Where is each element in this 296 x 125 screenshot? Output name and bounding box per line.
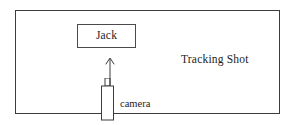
subject-box-jack[interactable]: Jack [77, 24, 136, 48]
diagram-canvas: Jack camera Tracking Shot [0, 0, 296, 125]
camera-label: camera [120, 99, 150, 110]
tracking-shot-label: Tracking Shot [181, 54, 249, 66]
subject-box-label: Jack [96, 30, 117, 42]
camera-icon [97, 78, 119, 125]
